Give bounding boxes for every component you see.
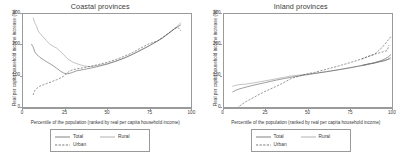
- series-line-rural-inland: [232, 59, 391, 87]
- y-tick-label-300-inland: 300: [201, 11, 221, 16]
- x-axis-label-inland: Percentile of the population (ranked by …: [213, 120, 400, 125]
- y-tick-label-300-coastal: 300: [0, 11, 20, 16]
- legend-key-urban-dashed-line-icon: [256, 142, 271, 148]
- series-line-urban-inland-tail: [361, 37, 390, 59]
- legend-key-total-line-icon: [55, 134, 70, 140]
- x-tick-label-0-inland: 0: [214, 110, 232, 115]
- legend-entry-urban-coastal: Urban: [55, 142, 101, 148]
- series-line-total-inland: [232, 58, 389, 92]
- series-line-urban-coastal: [33, 27, 181, 95]
- legend-label-total-coastal: Total: [73, 134, 83, 139]
- y-tick-label-200-inland: 200: [201, 42, 221, 47]
- x-tick-label-25-inland: 25: [256, 110, 274, 115]
- panel-title-coastal: Coastal provinces: [0, 2, 201, 11]
- legend-entry-total-inland: Total: [256, 134, 301, 140]
- legend-entry-urban-inland: Urban: [256, 142, 302, 148]
- legend-label-total-inland: Total: [274, 134, 284, 139]
- y-tick-label-0-inland: 0: [201, 105, 221, 110]
- x-tick-label-25-coastal: 25: [56, 110, 74, 115]
- x-tick-label-50-coastal: 50: [98, 110, 116, 115]
- figure-two-panel-line-charts: Coastal provinces Real per capita househ…: [0, 0, 401, 157]
- legend-row-2-coastal: Urban: [55, 141, 145, 149]
- legend-row-2-inland: Urban: [256, 141, 346, 149]
- legend-label-urban-coastal: Urban: [73, 142, 86, 147]
- legend-entry-rural-inland: Rural: [301, 134, 346, 140]
- legend-key-urban-dashed-line-icon: [55, 142, 70, 148]
- x-tick-label-100-inland: 100: [383, 110, 401, 115]
- x-tick-label-75-coastal: 75: [141, 110, 159, 115]
- legend-label-urban-inland: Urban: [274, 142, 287, 147]
- x-axis-label-coastal: Percentile of the population (ranked by …: [12, 120, 199, 125]
- panel-title-inland: Inland provinces: [201, 2, 401, 11]
- legend-label-rural-inland: Rural: [319, 134, 330, 139]
- y-tick-label-0-coastal: 0: [0, 105, 20, 110]
- legend-row-1-coastal: Total Rural: [55, 133, 145, 141]
- series-line-rural-coastal: [33, 18, 181, 67]
- legend-key-rural-line-icon: [301, 134, 316, 140]
- series-line-total-coastal: [31, 25, 181, 74]
- panel-coastal: Coastal provinces Real per capita househ…: [0, 0, 201, 157]
- legend-key-rural-line-icon: [100, 134, 115, 140]
- legend-row-1-inland: Total Rural: [256, 133, 346, 141]
- legend-inland: Total Rural Urban: [251, 129, 351, 152]
- y-axis-label-inland: Real per capita household income increas…: [211, 10, 220, 106]
- legend-coastal: Total Rural Urban: [50, 129, 150, 152]
- panel-inland: Inland provinces Real per capita househo…: [201, 0, 401, 157]
- y-tick-label-200-coastal: 200: [0, 42, 20, 47]
- x-tick-label-0-coastal: 0: [13, 110, 31, 115]
- y-tick-label-100-inland: 100: [201, 73, 221, 78]
- plot-area-coastal: [22, 13, 192, 108]
- y-axis-label-coastal: Real per capita household income increas…: [10, 10, 19, 106]
- plot-area-inland: [223, 13, 393, 108]
- legend-label-rural-coastal: Rural: [118, 134, 129, 139]
- series-line-urban-inland: [232, 45, 389, 107]
- y-tick-label-100-coastal: 100: [0, 73, 20, 78]
- legend-key-total-line-icon: [256, 134, 271, 140]
- x-tick-label-50-inland: 50: [299, 110, 317, 115]
- x-tick-label-75-inland: 75: [341, 110, 359, 115]
- legend-entry-rural-coastal: Rural: [100, 134, 145, 140]
- x-tick-label-100-coastal: 100: [182, 110, 200, 115]
- legend-entry-total-coastal: Total: [55, 134, 100, 140]
